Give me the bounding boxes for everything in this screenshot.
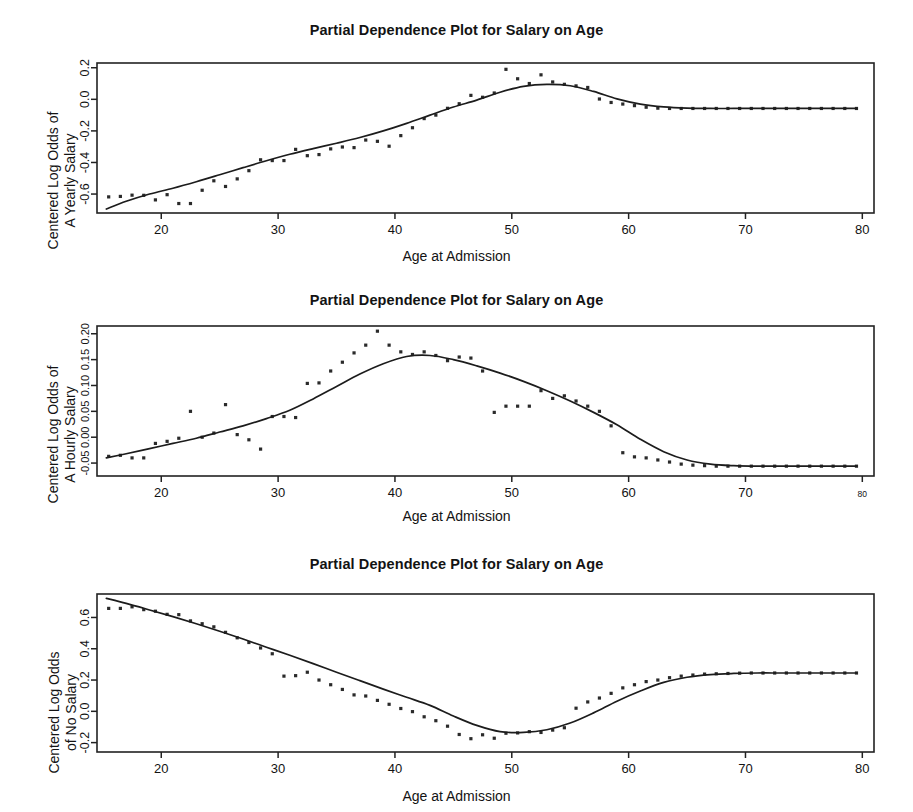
data-point bbox=[586, 405, 589, 408]
x-tick-label: 80 bbox=[858, 489, 868, 499]
data-point bbox=[516, 405, 519, 408]
x-tick-label: 40 bbox=[388, 761, 402, 776]
x-tick-label: 70 bbox=[738, 485, 752, 500]
data-point bbox=[306, 671, 309, 674]
x-tick-label: 60 bbox=[621, 485, 635, 500]
y-tick-label: -0.2 bbox=[78, 120, 92, 142]
data-point bbox=[189, 202, 192, 205]
data-point bbox=[586, 700, 589, 703]
data-point bbox=[376, 140, 379, 143]
y-tick-label: 0.6 bbox=[78, 609, 92, 626]
data-point bbox=[645, 680, 648, 683]
data-point bbox=[329, 147, 332, 150]
data-point bbox=[119, 607, 122, 610]
y-tick-label: 0.2 bbox=[78, 59, 92, 76]
y-tick-label: 0.2 bbox=[78, 671, 92, 688]
data-point bbox=[469, 94, 472, 97]
data-point bbox=[352, 146, 355, 149]
data-point bbox=[341, 145, 344, 148]
x-tick-label: 40 bbox=[388, 222, 402, 237]
data-point bbox=[668, 460, 671, 463]
plot-area: 20304050607080-0.20.00.20.40.6 bbox=[0, 572, 913, 777]
data-point bbox=[329, 683, 332, 686]
data-point bbox=[107, 607, 110, 610]
fit-line bbox=[106, 598, 856, 732]
data-point bbox=[364, 344, 367, 347]
data-point bbox=[236, 433, 239, 436]
data-point bbox=[376, 699, 379, 702]
data-point bbox=[142, 456, 145, 459]
data-point bbox=[469, 737, 472, 740]
data-point bbox=[493, 411, 496, 414]
data-point bbox=[446, 725, 449, 728]
y-tick-label: 0.0 bbox=[78, 703, 92, 720]
data-point bbox=[352, 693, 355, 696]
data-point bbox=[224, 185, 227, 188]
data-point bbox=[212, 179, 215, 182]
data-point bbox=[680, 463, 683, 466]
y-tick-label: 0.00 bbox=[79, 426, 91, 447]
data-point bbox=[282, 675, 285, 678]
data-point bbox=[598, 410, 601, 413]
x-tick-label: 80 bbox=[855, 761, 869, 776]
data-point bbox=[539, 73, 542, 76]
x-tick-label: 70 bbox=[738, 761, 752, 776]
x-tick-label: 80 bbox=[855, 222, 869, 237]
data-point bbox=[341, 688, 344, 691]
series-group bbox=[106, 68, 858, 209]
data-point bbox=[224, 403, 227, 406]
data-point bbox=[551, 397, 554, 400]
data-point bbox=[317, 381, 320, 384]
chart-panel-no-salary: Partial Dependence Plot for Salary on Ag… bbox=[0, 530, 913, 812]
data-point bbox=[201, 189, 204, 192]
y-tick-label: 0.0 bbox=[78, 91, 92, 108]
data-point bbox=[446, 359, 449, 362]
data-point bbox=[621, 686, 624, 689]
data-point bbox=[645, 106, 648, 109]
data-point bbox=[364, 694, 367, 697]
data-point bbox=[656, 458, 659, 461]
y-tick-label: 0.4 bbox=[78, 640, 92, 657]
x-axis-label: Age at Admission bbox=[0, 248, 913, 264]
data-point bbox=[306, 154, 309, 157]
data-point bbox=[574, 707, 577, 710]
x-tick-label: 40 bbox=[388, 485, 402, 500]
data-point bbox=[458, 733, 461, 736]
data-point bbox=[271, 652, 274, 655]
data-point bbox=[107, 195, 110, 198]
data-point bbox=[247, 169, 250, 172]
data-point bbox=[177, 613, 180, 616]
data-point bbox=[528, 405, 531, 408]
y-tick-label: -0.05 bbox=[79, 451, 91, 476]
data-point bbox=[388, 344, 391, 347]
data-point bbox=[551, 80, 554, 83]
figure-page: Partial Dependence Plot for Salary on Ag… bbox=[0, 0, 913, 812]
data-point bbox=[423, 715, 426, 718]
data-point bbox=[259, 158, 262, 161]
data-point bbox=[341, 361, 344, 364]
fit-line bbox=[106, 84, 856, 209]
data-point bbox=[364, 138, 367, 141]
data-point bbox=[633, 455, 636, 458]
data-point bbox=[598, 97, 601, 100]
y-tick-label: 0.10 bbox=[79, 375, 91, 396]
panel-title: Partial Dependence Plot for Salary on Ag… bbox=[0, 22, 913, 38]
data-point bbox=[610, 692, 613, 695]
data-point bbox=[493, 737, 496, 740]
data-point bbox=[329, 369, 332, 372]
x-tick-label: 50 bbox=[505, 485, 519, 500]
data-point bbox=[703, 464, 706, 467]
data-point bbox=[516, 77, 519, 80]
data-point bbox=[294, 674, 297, 677]
data-point bbox=[411, 126, 414, 129]
data-point bbox=[621, 102, 624, 105]
data-point bbox=[399, 707, 402, 710]
data-point bbox=[399, 134, 402, 137]
x-tick-label: 60 bbox=[621, 222, 635, 237]
y-tick-label: -0.6 bbox=[78, 183, 92, 205]
data-point bbox=[481, 733, 484, 736]
data-point bbox=[306, 382, 309, 385]
y-tick-label: -0.4 bbox=[78, 152, 92, 174]
x-tick-label: 30 bbox=[271, 485, 285, 500]
data-point bbox=[259, 646, 262, 649]
